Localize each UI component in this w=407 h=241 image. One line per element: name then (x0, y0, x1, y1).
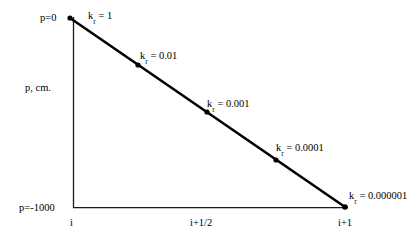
annotation-value: = 1 (98, 10, 112, 21)
annotation-kr-0-0001: kr = 0.0001 (276, 143, 324, 156)
y-axis-top-label: p=0 (40, 13, 56, 24)
annotation-subscript: r (145, 57, 148, 66)
annotation-kr-1: kr = 1 (88, 11, 112, 24)
x-axis-tick-label-i-half: i+1/2 (190, 218, 212, 229)
annotation-subscript: r (93, 17, 96, 26)
annotation-value: = 0.001 (217, 98, 249, 109)
data-point-marker (273, 157, 278, 162)
x-axis-tick-label-i-plus-1: i+1 (338, 218, 352, 229)
annotation-subscript: r (354, 197, 357, 206)
y-axis-title: p, cm. (25, 83, 51, 94)
x-axis-tick-label-i: i (70, 218, 73, 229)
annotation-subscript: r (281, 149, 284, 158)
data-point-marker (67, 15, 72, 20)
data-point-marker (342, 204, 348, 210)
annotation-subscript: r (212, 105, 215, 114)
annotation-value: = 0.0001 (286, 142, 323, 153)
annotation-value: = 0.01 (150, 50, 177, 61)
y-axis-bottom-label: p=-1000 (19, 203, 55, 214)
annotation-kr-0-001: kr = 0.001 (207, 99, 250, 112)
annotation-value: = 0.000001 (359, 190, 407, 201)
annotation-kr-0-000001: kr = 0.000001 (349, 191, 407, 204)
annotation-kr-0-01: kr = 0.01 (140, 51, 177, 64)
